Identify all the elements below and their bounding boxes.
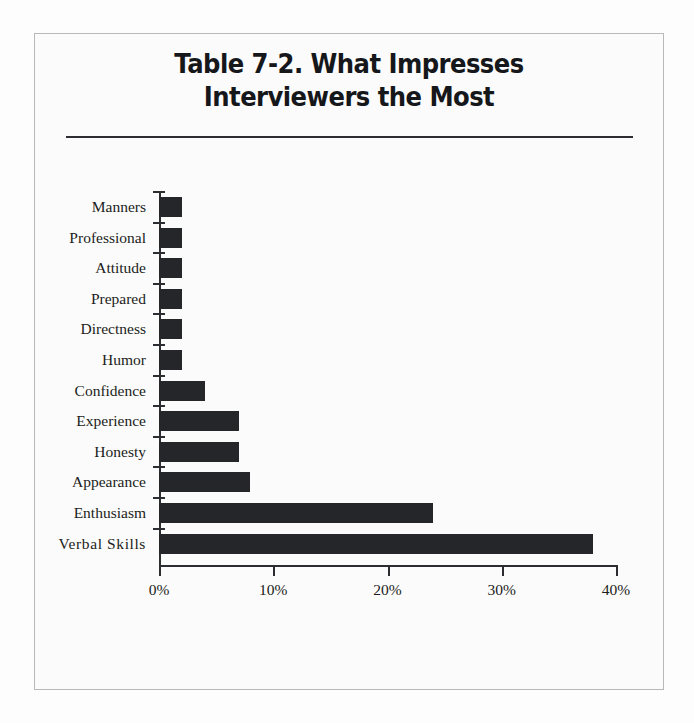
bar-confidence [159, 381, 205, 401]
x-axis-label-10pct: 10% [259, 582, 287, 598]
y-tick-mark [153, 191, 165, 193]
bar-appearance [159, 472, 250, 492]
y-axis-label-verbal-skills: Verbal Skills [59, 536, 146, 552]
x-tick-mark-40pct [616, 565, 618, 576]
bar-professional [159, 228, 182, 248]
y-tick-mark [153, 283, 165, 285]
chart-page: Table 7-2. What Impresses Interviewers t… [0, 0, 694, 723]
x-axis-label-0pct: 0% [149, 582, 170, 598]
bar-experience [159, 411, 239, 431]
y-axis-label-attitude: Attitude [95, 260, 146, 276]
y-axis-label-professional: Professional [69, 230, 146, 246]
y-tick-mark [153, 497, 165, 499]
y-axis-label-appearance: Appearance [72, 474, 146, 490]
y-tick-mark [153, 375, 165, 377]
x-axis-label-20pct: 20% [373, 582, 401, 598]
y-tick-mark [153, 344, 165, 346]
bar-attitude [159, 258, 182, 278]
bar-humor [159, 350, 182, 370]
bar-prepared [159, 289, 182, 309]
y-axis-label-confidence: Confidence [75, 383, 146, 399]
x-tick-mark-20pct [388, 565, 390, 576]
x-tick-mark-10pct [273, 565, 275, 576]
y-tick-mark [153, 405, 165, 407]
y-axis-label-enthusiasm: Enthusiasm [74, 505, 146, 521]
y-axis-label-honesty: Honesty [94, 444, 146, 460]
y-tick-mark [153, 436, 165, 438]
y-axis-label-directness: Directness [81, 321, 146, 337]
bar-manners [159, 197, 182, 217]
y-axis-label-experience: Experience [76, 413, 146, 429]
y-tick-mark [153, 252, 165, 254]
x-tick-mark-30pct [502, 565, 504, 576]
bar-verbal-skills [159, 534, 593, 554]
bar-enthusiasm [159, 503, 433, 523]
y-tick-mark [153, 313, 165, 315]
x-tick-mark-0pct [159, 565, 161, 576]
bar-honesty [159, 442, 239, 462]
y-tick-mark [153, 222, 165, 224]
x-axis-label-30pct: 30% [488, 582, 516, 598]
bar-directness [159, 319, 182, 339]
y-axis-label-humor: Humor [102, 352, 146, 368]
y-tick-mark [153, 466, 165, 468]
y-axis-label-prepared: Prepared [91, 291, 146, 307]
plot-area: MannersProfessionalAttitudePreparedDirec… [0, 0, 694, 723]
y-axis-label-manners: Manners [92, 199, 146, 215]
y-tick-mark [153, 528, 165, 530]
x-axis-label-40pct: 40% [602, 582, 630, 598]
